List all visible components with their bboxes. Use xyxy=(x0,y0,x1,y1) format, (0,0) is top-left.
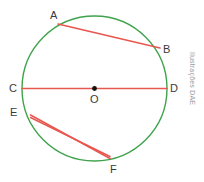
circle-diagram-figure: A B C D E F O Ilustrações DAE xyxy=(0,0,204,182)
point-label-d: D xyxy=(170,83,178,94)
point-label-e: E xyxy=(10,107,17,118)
point-label-o: O xyxy=(90,94,99,105)
point-label-b: B xyxy=(163,44,170,55)
center-point-dot xyxy=(92,86,97,91)
point-label-a: A xyxy=(50,10,57,21)
point-label-f: F xyxy=(110,164,117,175)
point-label-c: C xyxy=(9,83,17,94)
illustration-credit: Ilustrações DAE xyxy=(189,52,196,105)
chord-ef-secondary xyxy=(31,118,111,157)
